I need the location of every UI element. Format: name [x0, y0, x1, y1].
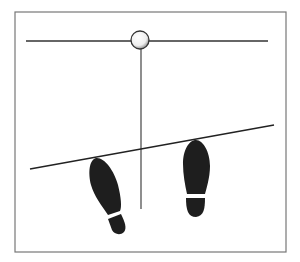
diagram-canvas [0, 0, 300, 262]
frame [15, 12, 286, 252]
ball-icon [131, 31, 149, 49]
